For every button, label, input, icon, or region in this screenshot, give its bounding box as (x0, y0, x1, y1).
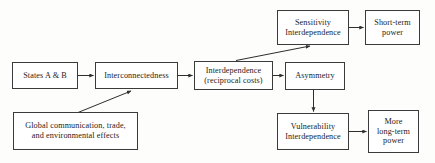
node-short-term-power: Short-term power (365, 10, 420, 45)
node-asymmetry: Asymmetry (285, 62, 345, 90)
node-label-states-a-and-b: States A & B (20, 71, 70, 81)
node-sensitivity-interdependence: Sensitivity Interdependence (277, 10, 349, 45)
diagram-canvas: States A & B Interconnectedness Interdep… (0, 0, 435, 163)
node-label-more-long-term-power: More long-term power (374, 117, 413, 146)
node-interconnectedness: Interconnectedness (95, 62, 178, 89)
node-label-asymmetry: Asymmetry (292, 71, 338, 81)
node-label-global-communication-trade-environment: Global communication, trade, and environ… (22, 121, 129, 140)
edge-global-to-interconnectedness (78, 91, 131, 113)
node-more-long-term-power: More long-term power (368, 110, 419, 153)
node-vulnerability-interdependence: Vulnerability Interdependence (277, 113, 349, 150)
edge-interdependence-to-sensitivity (236, 46, 310, 61)
node-states-a-and-b: States A & B (12, 62, 78, 89)
node-interdependence: Interdependence (reciprocal costs) (194, 61, 273, 90)
node-label-sensitivity-interdependence: Sensitivity Interdependence (282, 18, 344, 37)
node-label-interconnectedness: Interconnectedness (101, 71, 172, 81)
node-label-vulnerability-interdependence: Vulnerability Interdependence (282, 122, 344, 141)
node-label-short-term-power: Short-term power (371, 18, 413, 37)
node-label-interdependence: Interdependence (reciprocal costs) (201, 66, 265, 85)
node-global-communication-trade-environment: Global communication, trade, and environ… (13, 112, 138, 150)
